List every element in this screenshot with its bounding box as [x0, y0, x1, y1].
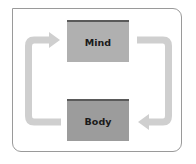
mind-node: Mind	[67, 20, 129, 62]
arrow-mind-to-body-icon	[137, 40, 169, 130]
body-label: Body	[85, 116, 112, 127]
mind-label: Mind	[85, 37, 111, 48]
body-node: Body	[67, 99, 129, 141]
arrow-body-to-mind-icon	[29, 32, 62, 122]
